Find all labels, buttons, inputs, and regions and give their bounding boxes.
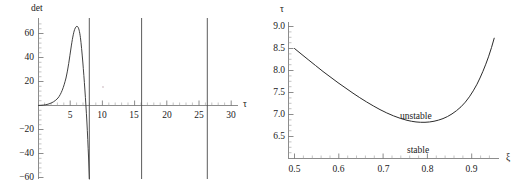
left-xtick-5: 5 bbox=[60, 111, 80, 121]
right-stability-curve bbox=[295, 38, 495, 122]
right-ytick-7-5: 7.5 bbox=[257, 88, 285, 98]
right-xtick-0-5: 0.5 bbox=[283, 165, 306, 175]
right-ytick-8-0: 8.0 bbox=[257, 66, 285, 76]
left-xtick-25: 25 bbox=[189, 111, 209, 121]
right-ytick-7-0: 7.0 bbox=[257, 110, 285, 120]
region-label-unstable: unstable bbox=[400, 112, 432, 122]
left-plot-xlabel: τ bbox=[243, 100, 247, 110]
left-xtick-15: 15 bbox=[124, 111, 144, 121]
right-xtick-0-8: 0.8 bbox=[416, 165, 439, 175]
left-ytick-neg60: −60 bbox=[3, 173, 34, 183]
left-ytick-neg20: −20 bbox=[3, 125, 34, 135]
left-y-minor-ticks bbox=[39, 24, 42, 173]
right-ytick-9-0: 9.0 bbox=[257, 22, 285, 32]
right-plot-graphic bbox=[261, 0, 522, 187]
right-ytick-8-5: 8.5 bbox=[257, 44, 285, 54]
left-plot-ylabel: det bbox=[31, 4, 43, 14]
left-ytick-40: 40 bbox=[6, 53, 34, 63]
right-xtick-0-7: 0.7 bbox=[372, 165, 395, 175]
right-plot-xlabel: ξ bbox=[506, 153, 510, 163]
right-plot-panel: τ ξ 9.0 8.5 8.0 7.5 7.0 6.5 0.5 0.6 0.7 … bbox=[261, 0, 522, 187]
right-ytick-6-5: 6.5 bbox=[257, 132, 285, 142]
right-xtick-0-9: 0.9 bbox=[460, 165, 483, 175]
right-plot-ylabel: τ bbox=[280, 5, 284, 15]
left-scan-speck bbox=[102, 86, 104, 88]
figure-container: det τ 60 40 20 −20 −40 −60 5 10 15 20 25… bbox=[0, 0, 522, 187]
left-xtick-10: 10 bbox=[92, 111, 112, 121]
region-label-stable: stable bbox=[407, 146, 429, 156]
left-xtick-30: 30 bbox=[221, 111, 241, 121]
right-x-minor-ticks bbox=[303, 156, 489, 159]
right-xtick-0-6: 0.6 bbox=[327, 165, 350, 175]
left-ytick-neg40: −40 bbox=[3, 149, 34, 159]
left-ytick-60: 60 bbox=[6, 29, 34, 39]
left-ytick-20: 20 bbox=[6, 77, 34, 87]
left-plot-panel: det τ 60 40 20 −20 −40 −60 5 10 15 20 25… bbox=[0, 0, 261, 187]
left-xtick-20: 20 bbox=[157, 111, 177, 121]
left-plot-graphic bbox=[0, 0, 261, 187]
